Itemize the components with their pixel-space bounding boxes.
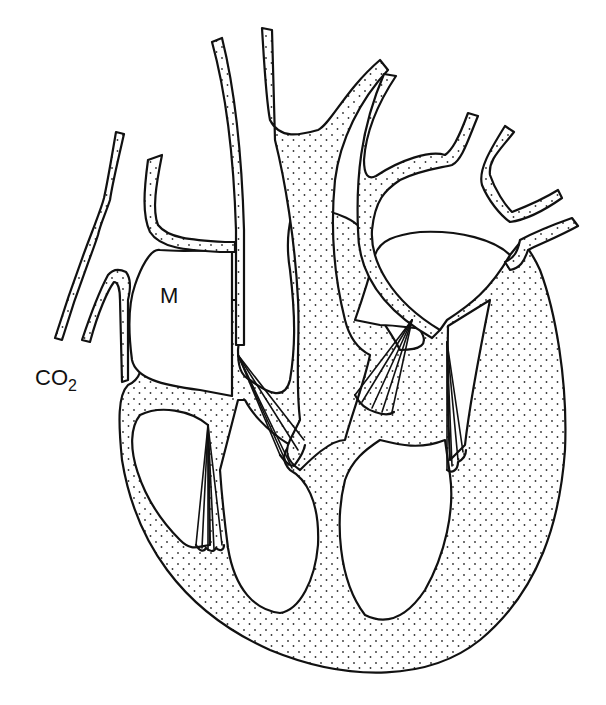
label-m: M <box>160 285 178 307</box>
label-m-text: M <box>160 283 178 308</box>
label-co2: CO2 <box>35 367 77 394</box>
pulmonary-branch-right <box>481 126 562 222</box>
left-atrium-appendage <box>82 270 130 382</box>
label-co2-subscript: 2 <box>68 377 77 394</box>
heart-diagram <box>0 0 606 705</box>
label-co2-text: CO <box>35 365 68 390</box>
left-atrium-cavity <box>129 250 232 396</box>
pulmonary-vein-left <box>55 132 124 340</box>
aortic-branch-far-right <box>505 218 578 270</box>
superior-vein-left <box>145 155 236 252</box>
